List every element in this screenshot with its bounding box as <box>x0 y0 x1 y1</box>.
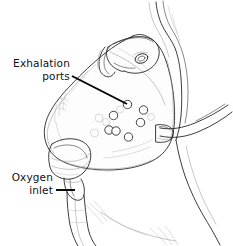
exhalation-ports-label-line2: ports <box>42 70 70 82</box>
exhalation-port <box>112 127 120 135</box>
mask-body <box>44 35 174 172</box>
exhalation-port <box>139 106 147 114</box>
oxygen-inlet-label-line2: inlet <box>29 184 53 196</box>
exhalation-ports-label-line1: Exhalation <box>13 57 70 69</box>
callout-oxygen-inlet: Oxygen inlet <box>12 171 53 196</box>
oxygen-tubing <box>67 192 96 246</box>
oxygen-mask-illustration: Exhalation ports Oxygen inlet <box>0 0 233 246</box>
figure-container: Exhalation ports Oxygen inlet <box>0 0 233 246</box>
exhalation-port <box>124 133 132 141</box>
oxygen-inlet-label-line1: Oxygen <box>12 171 53 183</box>
callout-exhalation-ports: Exhalation ports <box>13 57 70 82</box>
